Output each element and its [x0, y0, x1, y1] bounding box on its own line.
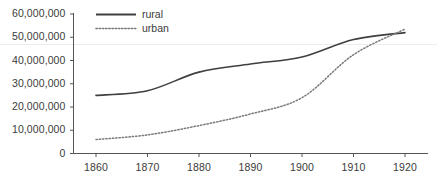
series-line-rural: [96, 33, 405, 96]
y-axis-tick-label: 30,000,000: [0, 77, 66, 89]
y-axis-tick-label: 20,000,000: [0, 100, 66, 112]
x-axis-tick-label: 1910: [329, 161, 379, 173]
y-axis-ticks: [70, 14, 74, 154]
x-axis-tick-label: 1860: [71, 161, 121, 173]
x-axis-tick-label: 1870: [123, 161, 173, 173]
y-axis-tick-label: 10,000,000: [0, 123, 66, 135]
y-axis-tick-label: 0: [0, 147, 66, 159]
series-line-urban: [96, 29, 405, 139]
legend-item-rural: rural: [142, 8, 163, 20]
y-axis-tick-label: 50,000,000: [0, 30, 66, 42]
y-axis-tick-label: 60,000,000: [0, 7, 66, 19]
y-axis-tick-label: 40,000,000: [0, 54, 66, 66]
x-axis-ticks: [96, 154, 405, 158]
x-axis-tick-label: 1880: [174, 161, 224, 173]
chart-plot-area: [0, 0, 437, 184]
legend-item-urban: urban: [142, 22, 169, 34]
line-chart: 010,000,00020,000,00030,000,00040,000,00…: [0, 0, 437, 184]
x-axis-tick-label: 1920: [380, 161, 430, 173]
x-axis-tick-label: 1890: [226, 161, 276, 173]
x-axis-tick-label: 1900: [277, 161, 327, 173]
